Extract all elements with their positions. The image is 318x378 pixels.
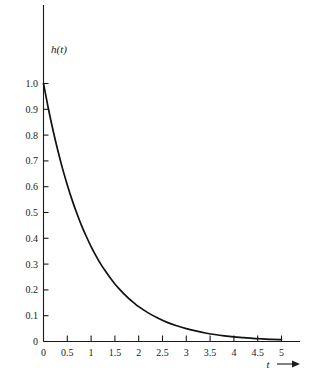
y-tick-label: 0 <box>33 336 38 347</box>
y-tick-label: 0.1 <box>26 310 39 321</box>
x-tick-label: 1.5 <box>109 347 122 358</box>
x-tick-label: 2.5 <box>156 347 169 358</box>
y-axis-tick-labels: 0 0.1 0.2 0.3 0.4 0.5 0.6 0.7 0.8 0.9 1.… <box>26 78 39 347</box>
exponential-decay-figure: 0 0.1 0.2 0.3 0.4 0.5 0.6 0.7 0.8 0.9 1.… <box>0 0 318 378</box>
y-tick-label: 0.9 <box>26 104 39 115</box>
x-tick-label: 1 <box>89 347 94 358</box>
x-tick-label: 5 <box>279 347 284 358</box>
x-tick-label: 3.5 <box>204 347 217 358</box>
x-axis-title: t <box>266 358 270 370</box>
y-tick-label: 0.5 <box>26 207 39 218</box>
x-axis-tick-labels: 0 0.5 1 1.5 2 2.5 3 3.5 4 4.5 5 <box>41 347 284 358</box>
x-tick-label: 4.5 <box>251 347 264 358</box>
x-tick-label: 2 <box>136 347 141 358</box>
y-axis-ticks <box>44 84 49 342</box>
exponential-decay-curve <box>44 84 282 340</box>
y-tick-label: 1.0 <box>26 78 39 89</box>
y-tick-label: 0.2 <box>26 284 39 295</box>
y-tick-label: 0.7 <box>26 155 39 166</box>
y-tick-label: 0.3 <box>26 259 39 270</box>
y-tick-label: 0.6 <box>26 181 39 192</box>
x-tick-label: 0 <box>41 347 46 358</box>
x-tick-label: 3 <box>184 347 189 358</box>
x-tick-label: 4 <box>231 347 236 358</box>
y-tick-label: 0.4 <box>26 233 39 244</box>
y-axis-title: h(t) <box>51 43 67 56</box>
y-tick-label: 0.8 <box>26 130 39 141</box>
x-axis-arrow-icon <box>277 361 300 368</box>
plot-area: 0 0.1 0.2 0.3 0.4 0.5 0.6 0.7 0.8 0.9 1.… <box>0 0 318 378</box>
x-tick-label: 0.5 <box>61 347 74 358</box>
